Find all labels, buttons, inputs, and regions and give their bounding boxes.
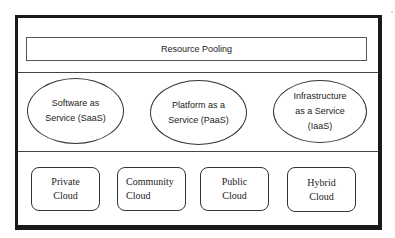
hybrid-cloud-label: Hybrid Cloud — [307, 176, 335, 204]
community-cloud-label: Community Cloud — [126, 175, 174, 203]
private-cloud-box: Private Cloud — [31, 167, 100, 211]
resource-pooling-label: Resource Pooling — [161, 44, 232, 54]
saas-label: Software as Service (SaaS) — [45, 96, 106, 126]
iaas-ellipse: Infrastructure as a Service (IaaS) — [273, 80, 367, 143]
paas-label: Platform as a Service (PaaS) — [168, 98, 229, 128]
hybrid-cloud-box: Hybrid Cloud — [287, 167, 356, 212]
resource-pooling-box: Resource Pooling — [26, 37, 367, 61]
divider-bottom — [18, 151, 378, 152]
private-cloud-label: Private Cloud — [51, 175, 79, 203]
public-cloud-label: Public Cloud — [222, 175, 248, 203]
stray-dot — [391, 11, 393, 13]
paas-ellipse: Platform as a Service (PaaS) — [150, 80, 247, 145]
divider-top — [18, 72, 378, 73]
saas-ellipse: Software as Service (SaaS) — [27, 78, 124, 144]
public-cloud-box: Public Cloud — [200, 167, 269, 211]
iaas-label: Infrastructure as a Service (IaaS) — [293, 89, 346, 134]
community-cloud-box: Community Cloud — [117, 167, 186, 211]
